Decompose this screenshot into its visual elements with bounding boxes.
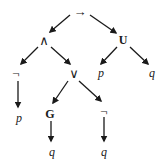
tree-node-n1: ∧ — [39, 33, 49, 48]
tree-node-n9: ¬ — [100, 104, 107, 119]
edge-arrow-n4-n9 — [79, 81, 101, 101]
edge-arrow-n2-n5 — [101, 47, 117, 64]
edge-arrow-n0-n1 — [50, 15, 70, 32]
edge-arrow-n1-n4 — [51, 47, 70, 64]
tree-node-n2: U — [119, 33, 128, 47]
edge-arrow-n4-n8 — [53, 81, 68, 103]
tree-node-n7: p — [15, 111, 22, 125]
edge-arrow-n1-n3 — [21, 47, 38, 64]
tree-edges — [18, 15, 148, 141]
tree-node-n6: q — [149, 66, 155, 80]
tree-node-n10: q — [49, 145, 55, 159]
tree-node-n0: → — [74, 4, 87, 19]
tree-node-n3: ¬ — [12, 66, 19, 81]
tree-node-n11: q — [101, 145, 107, 159]
syntax-tree-diagram: →∧U¬∨pqpG¬qq — [0, 0, 163, 165]
tree-node-n8: G — [45, 107, 54, 121]
tree-node-n5: p — [97, 66, 104, 80]
edge-arrow-n2-n6 — [130, 47, 148, 64]
tree-node-n4: ∨ — [69, 66, 79, 81]
tree-nodes: →∧U¬∨pqpG¬qq — [12, 4, 155, 160]
edge-arrow-n0-n2 — [90, 15, 116, 33]
